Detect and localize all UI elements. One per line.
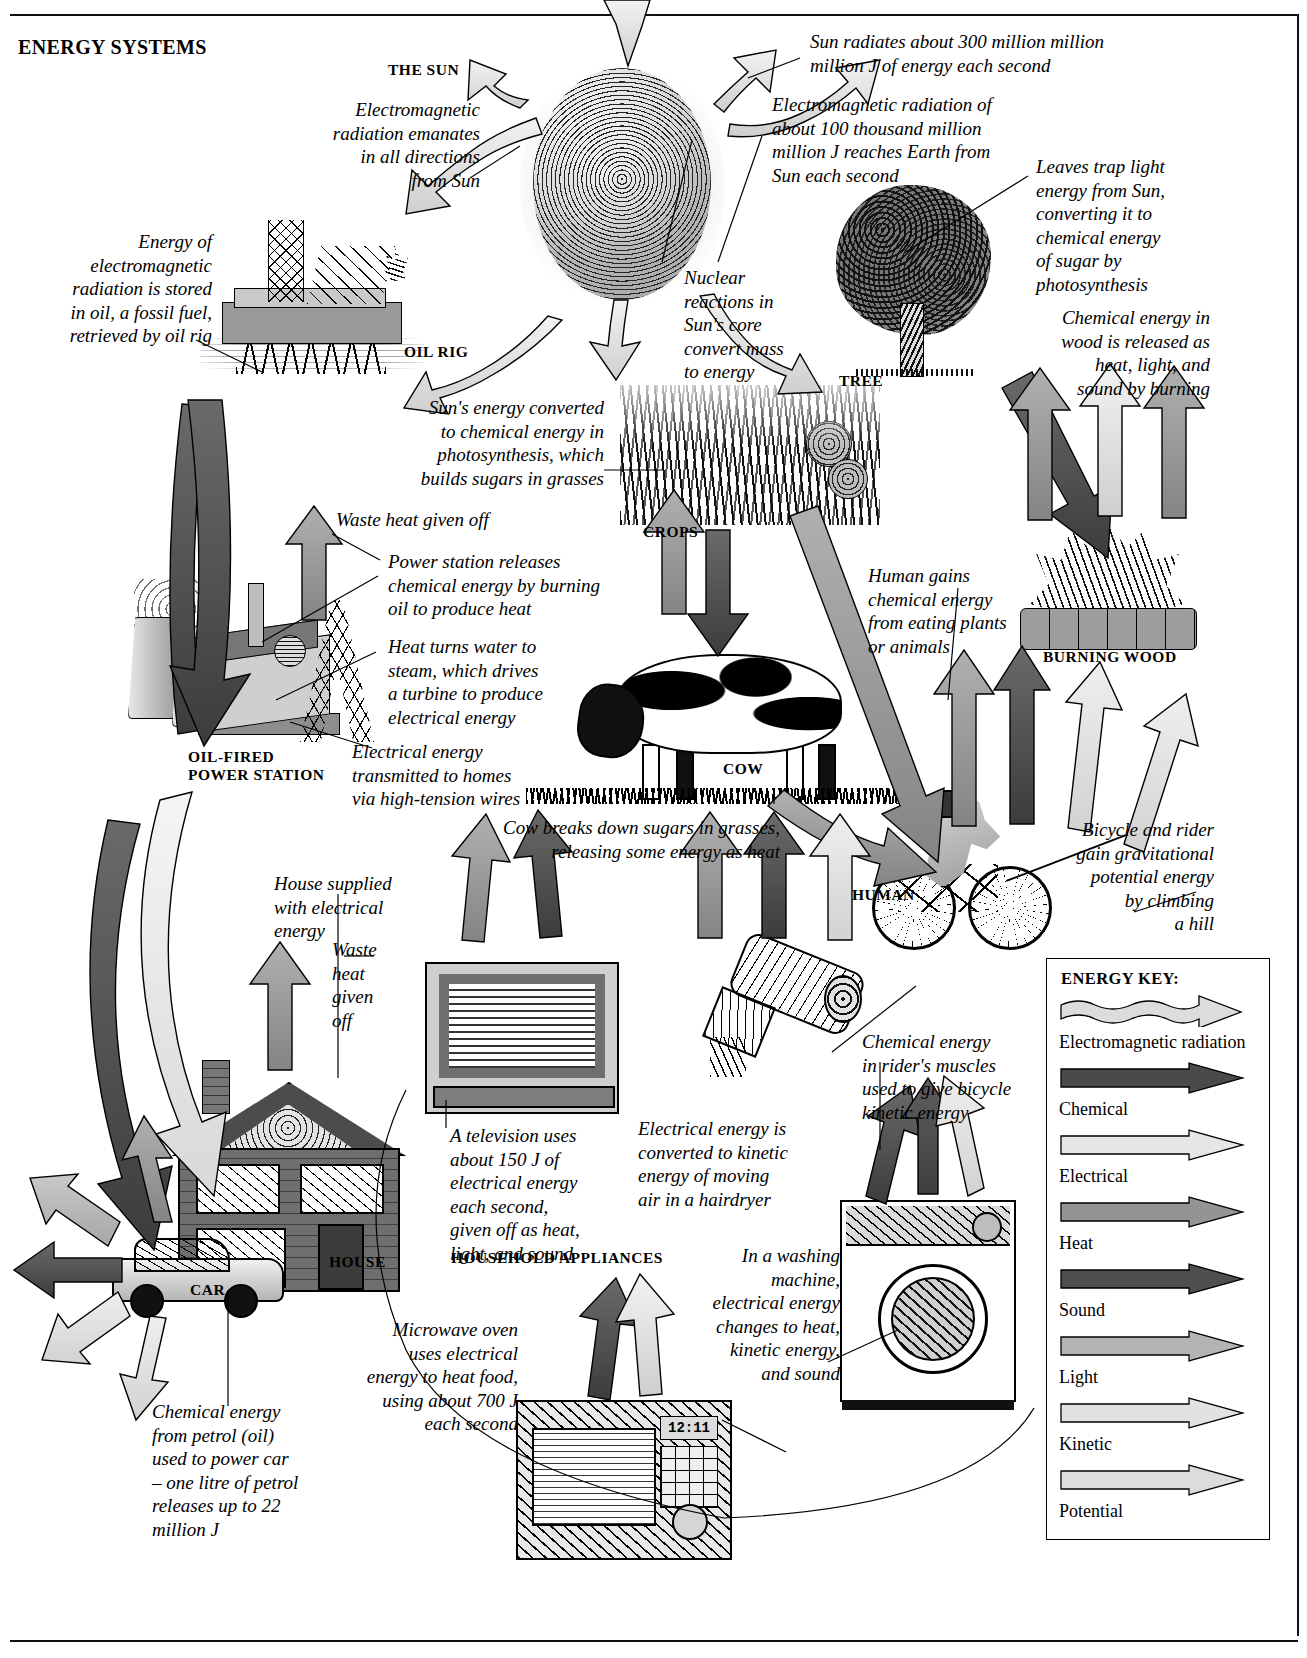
label-car: CAR xyxy=(190,1281,225,1299)
caption-nuclear-reactions: Nuclear reactions in Sun's core convert … xyxy=(684,266,814,384)
energy-key-item: Electrical xyxy=(1059,1129,1257,1187)
energy-key-item: Light xyxy=(1059,1330,1257,1388)
energy-key-label: Potential xyxy=(1059,1501,1257,1522)
label-house: HOUSE xyxy=(329,1253,386,1271)
arrow-icon xyxy=(1059,1263,1245,1295)
caption-car-petrol: Chemical energy from petrol (oil) used t… xyxy=(152,1400,372,1541)
caption-heat-turns-water: Heat turns water to steam, which drives … xyxy=(388,635,638,729)
arrow-icon xyxy=(1059,1062,1245,1094)
energy-systems-page: ENERGY SYSTEMS xyxy=(0,0,1307,1658)
label-oil-rig: OIL RIG xyxy=(404,343,468,361)
caption-em-emanates: Electromagnetic radiation emanates in al… xyxy=(252,98,480,192)
energy-key-label: Light xyxy=(1059,1367,1257,1388)
caption-washing-machine: In a washing machine, electrical energy … xyxy=(680,1244,840,1385)
energy-key-label: Sound xyxy=(1059,1300,1257,1321)
caption-bicycle-gpe: Bicycle and rider gain gravitational pot… xyxy=(1010,818,1214,936)
energy-key-label: Electromagnetic radiation xyxy=(1059,1032,1257,1053)
arrow-icon xyxy=(1059,1464,1245,1496)
caption-wood-released: Chemical energy in wood is released as h… xyxy=(1010,306,1210,400)
caption-sun-radiates: Sun radiates about 300 million million m… xyxy=(810,30,1190,77)
caption-oil-stored: Energy of electromagnetic radiation is s… xyxy=(0,230,212,348)
label-cow: COW xyxy=(723,760,763,778)
energy-key-label: Kinetic xyxy=(1059,1434,1257,1455)
caption-em-reaches-earth: Electromagnetic radiation of about 100 t… xyxy=(772,93,1034,187)
label-the-sun: THE SUN xyxy=(388,61,459,79)
label-crops: CROPS xyxy=(643,523,698,541)
arrow-icon xyxy=(1059,1397,1245,1429)
caption-cow-breaks-down: Cow breaks down sugars in grasses, relea… xyxy=(420,816,780,863)
caption-waste-heat-station: Waste heat given off xyxy=(336,508,616,532)
energy-key-item: Potential xyxy=(1059,1464,1257,1522)
caption-leaves-trap: Leaves trap light energy from Sun, conve… xyxy=(1036,155,1216,296)
caption-house-supplied: House supplied with electrical energy xyxy=(274,872,444,943)
label-human: HUMAN xyxy=(852,886,915,904)
label-tree: TREE xyxy=(839,372,883,390)
caption-photosynthesis-grasses: Sun's energy converted to chemical energ… xyxy=(352,396,604,490)
arrow-icon xyxy=(1059,1129,1245,1161)
energy-key-panel: ENERGY KEY: Electromagnetic radiationChe… xyxy=(1046,958,1270,1540)
arrow-icon xyxy=(1059,995,1245,1027)
caption-power-station-burns: Power station releases chemical energy b… xyxy=(388,550,678,621)
label-oil-fired-power-station: OIL-FIRED POWER STATION xyxy=(188,748,324,785)
caption-waste-heat-house: Waste heat given off xyxy=(332,938,412,1032)
arrow-icon xyxy=(1059,1196,1245,1228)
energy-key-item: Chemical xyxy=(1059,1062,1257,1120)
caption-electrical-transmitted: Electrical energy transmitted to homes v… xyxy=(352,740,604,811)
caption-television: A television uses about 150 J of electri… xyxy=(450,1124,650,1265)
caption-human-gains: Human gains chemical energy from eating … xyxy=(868,564,1068,658)
energy-key-label: Chemical xyxy=(1059,1099,1257,1120)
energy-key-item: Sound xyxy=(1059,1263,1257,1321)
energy-key-item: Electromagnetic radiation xyxy=(1059,995,1257,1053)
energy-key-item: Kinetic xyxy=(1059,1397,1257,1455)
energy-key-item: Heat xyxy=(1059,1196,1257,1254)
caption-hairdryer: Electrical energy is converted to kineti… xyxy=(638,1117,868,1211)
caption-rider-muscles: Chemical energy in rider's muscles used … xyxy=(862,1030,1074,1124)
energy-key-title: ENERGY KEY: xyxy=(1061,969,1179,989)
arrow-icon xyxy=(1059,1330,1245,1362)
energy-key-label: Heat xyxy=(1059,1233,1257,1254)
energy-key-label: Electrical xyxy=(1059,1166,1257,1187)
